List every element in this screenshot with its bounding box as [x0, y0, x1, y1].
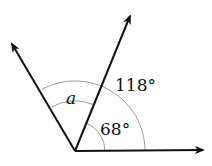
- angle-diagram: 118° 68° a: [0, 0, 212, 166]
- unknown-angle-label: a: [66, 88, 76, 108]
- inner-angle-label: 68°: [100, 119, 130, 139]
- horizontal-ray: [75, 150, 203, 151]
- outer-angle-label: 118°: [115, 75, 156, 95]
